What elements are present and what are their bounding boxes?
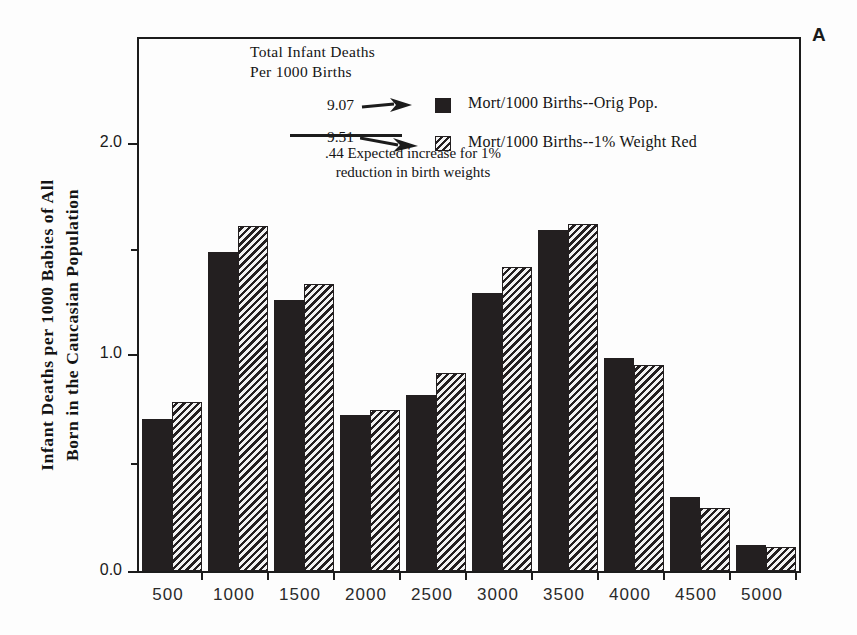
x-tick-2500 <box>465 571 467 580</box>
bar-1000-reduced <box>238 226 268 571</box>
bar-3000-orig <box>472 293 502 571</box>
bar-2000-orig <box>340 415 370 571</box>
bar-4500-orig <box>670 497 700 571</box>
x-tick-1500 <box>333 571 335 580</box>
y-tick-1 <box>128 354 138 356</box>
x-tick-500 <box>201 571 203 580</box>
bar-3000-reduced <box>502 267 532 571</box>
bar-5000-reduced <box>766 547 796 571</box>
bar-2000-reduced <box>370 410 400 571</box>
bar-500-orig <box>142 419 172 571</box>
arrow-right-icon <box>360 98 416 114</box>
y-minor-tick-0-5 <box>131 463 138 465</box>
bar-3500-reduced <box>568 224 598 571</box>
x-tick-4500 <box>729 571 731 580</box>
x-tick-2000 <box>399 571 401 580</box>
x-tick-label-2: 1500 <box>265 585 335 605</box>
x-tick-5000 <box>795 571 797 580</box>
legend-row-orig-pop: 9.07 Mort/1000 Births--Orig Pop. <box>250 94 790 120</box>
x-tick-1000 <box>267 571 269 580</box>
bar-4500-reduced <box>700 508 730 571</box>
x-tick-label-3: 2000 <box>331 585 401 605</box>
legend-label-orig-pop: Mort/1000 Births--Orig Pop. <box>468 94 658 112</box>
x-tick-3500 <box>597 571 599 580</box>
bar-2500-reduced <box>436 373 466 571</box>
bar-1000-orig <box>208 252 238 571</box>
y-tick-label-0: 0.0 <box>62 561 122 579</box>
x-tick-label-7: 4000 <box>595 585 665 605</box>
y-minor-tick-1-5 <box>131 249 138 251</box>
legend-block: Total Infant Deaths Per 1000 Births 9.07… <box>250 42 790 152</box>
x-tick-label-8: 4500 <box>661 585 731 605</box>
y-tick-0 <box>128 571 138 573</box>
x-tick-4000 <box>663 571 665 580</box>
legend-swatch-orig-pop-icon <box>435 98 451 113</box>
bar-3500-orig <box>538 230 568 571</box>
x-tick-label-1: 1000 <box>199 585 269 605</box>
bar-4000-orig <box>604 358 634 571</box>
chart-figure: A Infant Deaths per 1000 Babies of All B… <box>0 0 857 635</box>
y-tick-label-2: 2.0 <box>62 133 122 151</box>
y-tick-2 <box>128 143 138 145</box>
panel-letter: A <box>812 24 826 46</box>
x-tick-label-4: 2500 <box>397 585 467 605</box>
legend-value-orig-pop: 9.07 <box>306 96 354 114</box>
x-tick-label-6: 3500 <box>529 585 599 605</box>
y-tick-label-1: 1.0 <box>62 344 122 362</box>
x-tick-3000 <box>531 571 533 580</box>
bar-2500-orig <box>406 395 436 571</box>
x-axis-line <box>137 571 801 573</box>
bar-1500-reduced <box>304 284 334 571</box>
bar-4000-reduced <box>634 365 664 571</box>
bar-5000-orig <box>736 545 766 571</box>
y-axis-title: Infant Deaths per 1000 Babies of All Bor… <box>35 115 85 535</box>
x-tick-label-5: 3000 <box>463 585 533 605</box>
legend-note: .44 Expected increase for 1% reduction i… <box>268 144 558 182</box>
x-tick-label-0: 500 <box>133 585 203 605</box>
x-tick-label-9: 5000 <box>727 585 797 605</box>
legend-underline <box>290 134 402 137</box>
bar-500-reduced <box>172 402 202 571</box>
bar-1500-orig <box>274 300 304 571</box>
legend-title: Total Infant Deaths Per 1000 Births <box>250 42 790 82</box>
